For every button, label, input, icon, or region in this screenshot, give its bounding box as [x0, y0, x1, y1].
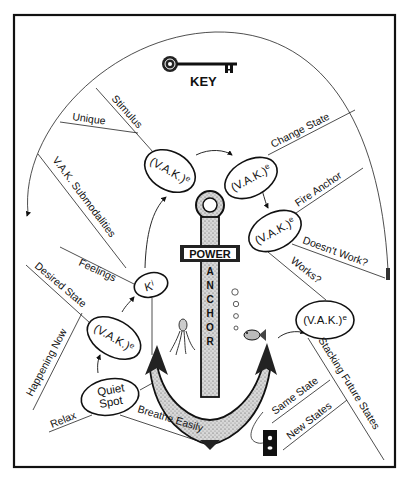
label-happening-now: Happening Now — [23, 326, 69, 398]
arrow-desired-to-ki — [122, 297, 134, 312]
title-key: KEY — [190, 74, 217, 89]
label-works: Works? — [289, 254, 324, 285]
arrow-quiet-to-desired — [98, 355, 100, 373]
node-desired-state: (V.A.K.)e — [80, 308, 148, 368]
svg-text:O: O — [206, 322, 214, 333]
svg-text:C: C — [206, 294, 213, 305]
branch-stacking-line — [308, 338, 384, 460]
node-top-left: (V.A.K.)e — [137, 141, 203, 201]
anchor-crossbar-text: POWER — [189, 248, 231, 260]
loop-end-mark — [386, 268, 390, 280]
outer-loop-arrow — [27, 213, 28, 216]
node-top-right: (V.A.K.)e — [218, 149, 284, 207]
node-ki: Ki — [131, 269, 170, 301]
arrow-works-to-future — [278, 332, 305, 338]
svg-text:R: R — [206, 336, 214, 347]
label-fire-anchor: Fire Anchor — [292, 168, 344, 208]
svg-text:A: A — [206, 266, 213, 277]
power-anchor-mindmap: KEY POWER A N C — [0, 0, 407, 481]
svg-text:(V.A.K.)e: (V.A.K.)e — [303, 313, 347, 326]
svg-text:N: N — [206, 280, 213, 291]
plug-socket-icon — [263, 430, 277, 456]
label-feelings: Feelings — [77, 256, 118, 284]
octopus-icon — [170, 319, 195, 355]
arrow-ki-to-top-left — [145, 197, 166, 268]
label-change-state: Change State — [268, 110, 331, 150]
key-icon — [162, 56, 237, 73]
branch-submod-line — [38, 154, 126, 268]
svg-text:H: H — [206, 308, 213, 319]
label-vak-submodalities: V.A.K. Submodalities — [50, 154, 118, 239]
node-fire-anchor: (V.A.K.)e — [242, 202, 308, 260]
label-new-states: New States — [284, 399, 334, 442]
bubbles-icon — [232, 289, 239, 330]
node-quiet-spot: Quiet Spot — [78, 374, 141, 420]
arrow-top-left-to-top-right — [196, 150, 232, 155]
node-future-states: (V.A.K.)e — [296, 301, 354, 339]
label-stimulus: Stimulus — [110, 92, 146, 130]
fish-icon — [244, 329, 266, 341]
